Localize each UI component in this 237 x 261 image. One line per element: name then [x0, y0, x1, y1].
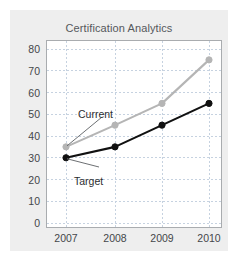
annotation-label-target: Target	[74, 175, 103, 187]
gridlines	[47, 41, 221, 227]
data-point-marker[interactable]	[206, 57, 212, 63]
y-axis-tick-label: 0	[10, 218, 40, 228]
x-axis-tick-label: 2008	[93, 233, 137, 244]
y-axis-tick-label: 20	[10, 175, 40, 185]
x-axis-tick-label: 2010	[187, 233, 231, 244]
annotation-leader-lines	[67, 117, 102, 167]
annotation-label-current: Current	[78, 108, 113, 120]
data-point-marker[interactable]	[206, 100, 212, 106]
series-line-current	[66, 60, 209, 147]
data-point-marker[interactable]	[112, 144, 118, 150]
y-axis-tick-label: 50	[10, 109, 40, 119]
chart-canvas	[47, 41, 221, 227]
plot-area	[46, 40, 222, 228]
data-point-marker[interactable]	[159, 100, 165, 106]
data-point-marker[interactable]	[112, 122, 118, 128]
y-axis-tick-label: 70	[10, 66, 40, 76]
data-point-marker[interactable]	[159, 122, 165, 128]
chart-title: Certification Analytics	[10, 22, 228, 34]
data-point-marker[interactable]	[63, 155, 69, 161]
chart-card: Certification Analytics 0102030405060708…	[10, 10, 228, 251]
y-axis-tick-label: 30	[10, 153, 40, 163]
y-axis-tick-label: 40	[10, 131, 40, 141]
leader-line-current	[67, 117, 102, 146]
leader-line-target	[67, 159, 99, 167]
x-axis-tick-label: 2007	[44, 233, 88, 244]
x-axis-tick-label: 2009	[140, 233, 184, 244]
y-axis-tick-label: 60	[10, 88, 40, 98]
y-axis-tick-label: 80	[10, 44, 40, 54]
y-axis-tick-label: 10	[10, 196, 40, 206]
